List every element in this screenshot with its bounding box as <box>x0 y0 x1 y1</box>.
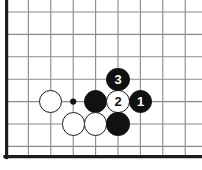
stone-move-number: 3 <box>115 73 122 86</box>
go-board-grid <box>0 0 202 170</box>
stone-white-numbered-2: 2 <box>106 90 129 113</box>
stone-move-number: 2 <box>115 95 122 108</box>
stone-black-numbered-1: 1 <box>129 90 152 113</box>
go-diagram: 213 <box>0 0 202 170</box>
stone-white <box>84 112 107 135</box>
stone-black <box>106 112 129 135</box>
stone-white <box>62 112 85 135</box>
stone-move-number: 1 <box>137 95 144 108</box>
star-point-hoshi <box>70 99 76 105</box>
stone-black-numbered-3: 3 <box>106 68 129 91</box>
